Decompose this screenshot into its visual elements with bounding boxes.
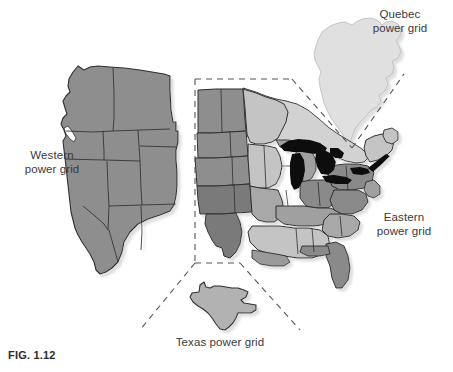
- dashed-texas-left-leg: [140, 263, 195, 330]
- label-eastern-power-grid: Eastern power grid: [358, 211, 450, 238]
- label-western-power-grid: Western power grid: [6, 149, 98, 176]
- figure-container: Western power grid Eastern power grid Qu…: [0, 0, 453, 372]
- dashed-texas-right-leg: [240, 263, 300, 330]
- power-grid-map: [0, 0, 453, 372]
- label-quebec-power-grid: Quebec power grid: [352, 8, 448, 35]
- figure-caption: FIG. 1.12: [8, 349, 56, 361]
- texas-grid-shape: [190, 282, 256, 330]
- label-texas-power-grid: Texas power grid: [150, 336, 290, 350]
- eastern-grid-shape: [195, 88, 398, 288]
